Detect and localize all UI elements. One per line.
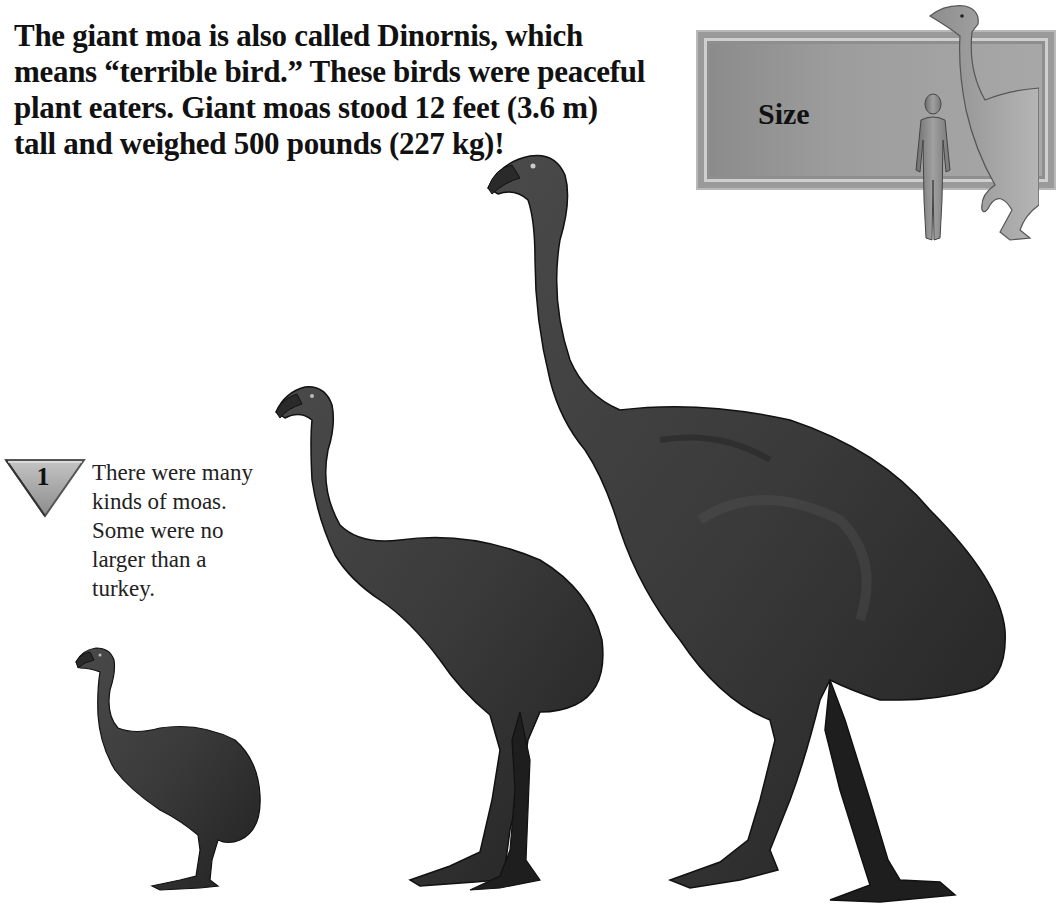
- badge-number: 1: [4, 462, 82, 492]
- medium-moa-illustration: [276, 387, 603, 890]
- fact-line: Some were no: [92, 516, 302, 545]
- giant-moa-illustration: [488, 155, 1005, 902]
- fact-badge: 1: [4, 458, 84, 520]
- fact-line: turkey.: [92, 574, 302, 603]
- fact-line: larger than a: [92, 545, 302, 574]
- fact-line: There were many: [92, 458, 302, 487]
- moa-scale-icon: [930, 6, 1039, 240]
- fact-text: There were many kinds of moas. Some were…: [92, 458, 302, 603]
- small-moa-illustration: [76, 648, 260, 890]
- human-silhouette-icon: [916, 94, 950, 240]
- fact-line: kinds of moas.: [92, 487, 302, 516]
